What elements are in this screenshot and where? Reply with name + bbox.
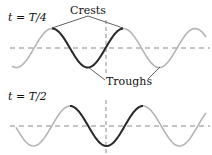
- crests-annotation: Crests: [52, 4, 123, 28]
- crests-label: Crests: [70, 4, 106, 17]
- time-label-t-half: t = T/2: [8, 90, 47, 103]
- troughs-label: Troughs: [106, 75, 152, 88]
- crest-leader-line: [88, 16, 123, 28]
- troughs-annotation: Troughs: [88, 67, 160, 88]
- crest-leader-line: [52, 16, 88, 28]
- trough-leader-line: [148, 67, 160, 79]
- panel-t-half: t = T/2: [8, 90, 210, 155]
- traveling-wave-diagram: t = T/4 Crests Troughs t = T/2: [0, 0, 212, 155]
- highlighted-wavelength-segment: [70, 106, 143, 146]
- panel-t-quarter: t = T/4: [8, 11, 210, 76]
- trough-leader-line: [88, 67, 105, 80]
- time-label-t-quarter: t = T/4: [8, 11, 47, 24]
